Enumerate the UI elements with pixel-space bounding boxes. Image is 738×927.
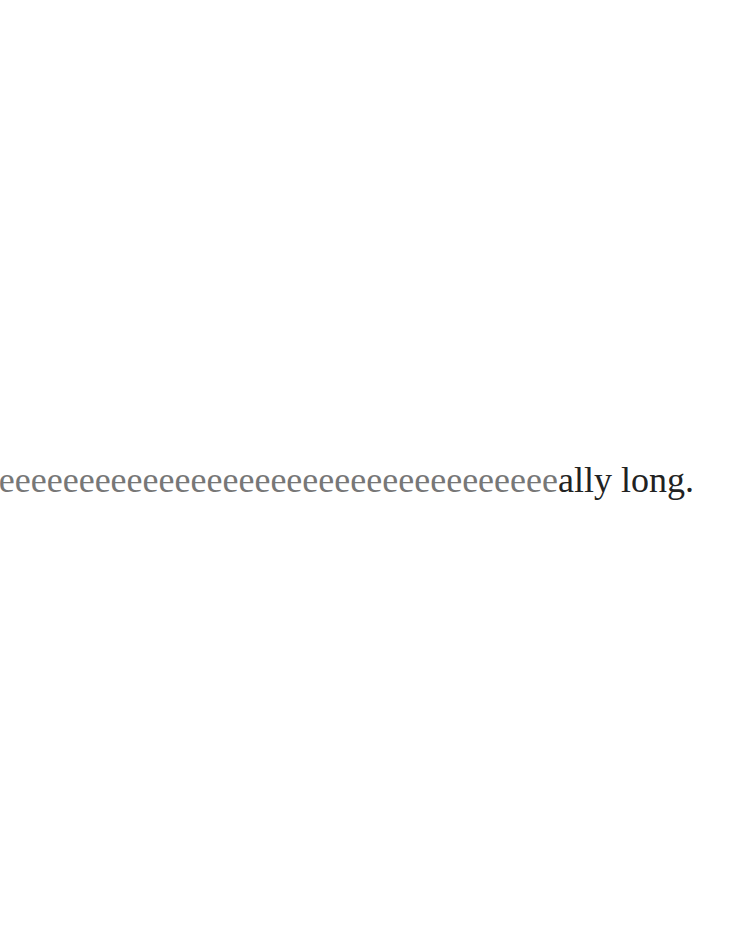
solid-text-segment: ally long. <box>558 460 694 500</box>
long-text-line: Reeeeeeeeeeeeeeeeeeeeeeeeeeeeeeeeeeeeeea… <box>0 458 694 502</box>
faded-text-segment: Reeeeeeeeeeeeeeeeeeeeeeeeeeeeeeeeeeeeee <box>0 460 558 500</box>
document-page: Reeeeeeeeeeeeeeeeeeeeeeeeeeeeeeeeeeeeeea… <box>0 0 738 927</box>
